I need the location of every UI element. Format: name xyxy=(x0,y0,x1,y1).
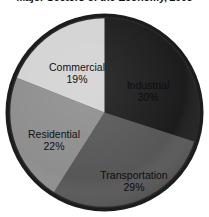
pie-chart-figure: Major Sectors of the Economy, 2005 xyxy=(0,0,209,217)
pie-chart-svg xyxy=(4,12,205,213)
pie-shading-overlay xyxy=(10,18,200,208)
pie-chart-plot-area: Industrial 30% Transportation 29% Reside… xyxy=(4,12,205,213)
chart-title: Major Sectors of the Economy, 2005 xyxy=(0,0,209,3)
